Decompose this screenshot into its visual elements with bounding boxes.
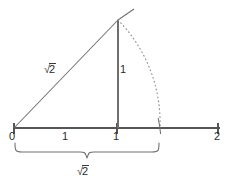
axis-label-0: 0 [9, 131, 15, 142]
apex-overshoot-stroke [118, 9, 134, 20]
brace-length-label: √2 [77, 165, 89, 178]
geometry-figure [0, 0, 234, 184]
radicand-value: 2 [82, 165, 89, 178]
axis-label-1: 1 [113, 131, 119, 142]
radicand-value: 2 [49, 63, 56, 76]
hypotenuse-length-label: √2 [44, 63, 56, 76]
base-length-label: 1 [62, 131, 68, 142]
axis-label-2: 2 [214, 131, 220, 142]
triangle-hypotenuse [14, 20, 118, 128]
measurement-brace [15, 143, 159, 158]
vertical-leg-length-label: 1 [120, 64, 126, 75]
figure-container: 0 1 2 1 1 √2 √2 [0, 0, 234, 184]
